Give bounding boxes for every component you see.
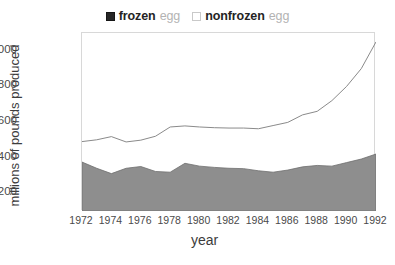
y-tick-label: 1000 (0, 43, 17, 55)
nonfrozen-egg-line (82, 42, 376, 142)
chart-figure: frozen egg nonfrozen egg millions of pou… (0, 0, 395, 265)
x-axis-ticks: 1972197419761978198019821984198619881990… (81, 214, 375, 230)
y-tick-label: 600 (0, 114, 17, 126)
y-tick-label: 800 (0, 78, 17, 90)
y-tick-label: 200 (0, 185, 17, 197)
frozen-egg-area (82, 154, 376, 211)
y-tick-label: 400 (0, 150, 17, 162)
legend-label-frozen-egg: egg (160, 9, 181, 23)
x-axis-title-text: year (177, 232, 218, 248)
plot-area (81, 32, 375, 210)
chart-legend: frozen egg nonfrozen egg (0, 6, 395, 26)
legend-label-frozen: frozen (119, 9, 156, 23)
legend-item-nonfrozen: nonfrozen egg (192, 9, 289, 23)
x-axis-title: year (0, 232, 395, 248)
legend-label-nonfrozen: nonfrozen (205, 9, 265, 23)
legend-label-nonfrozen-egg: egg (269, 9, 290, 23)
chart-canvas (82, 33, 376, 211)
legend-item-frozen: frozen egg (106, 9, 180, 23)
filled-square-swatch-icon (106, 12, 115, 21)
empty-square-swatch-icon (192, 12, 201, 21)
x-tick-label: 1992 (355, 214, 395, 226)
